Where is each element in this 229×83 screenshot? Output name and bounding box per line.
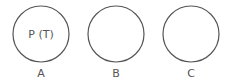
circle-b: [88, 6, 144, 62]
circle-group-a: P (T) A: [13, 6, 69, 80]
circle-a-inner-text: P (T): [28, 28, 53, 41]
circle-group-b: B: [88, 6, 144, 80]
circle-a-label: A: [37, 67, 45, 80]
circle-group-c: C: [163, 6, 219, 80]
circles-diagram: P (T) A B C: [0, 0, 229, 83]
circle-c-label: C: [187, 67, 195, 80]
circle-b-label: B: [112, 67, 120, 80]
circle-c: [163, 6, 219, 62]
